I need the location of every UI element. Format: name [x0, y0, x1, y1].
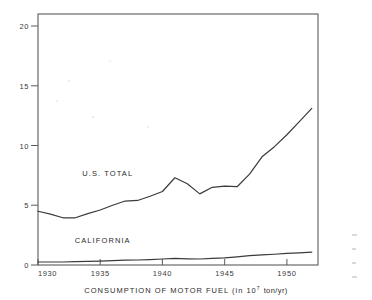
series-label-california: CALIFORNIA [75, 236, 131, 245]
plot-frame [38, 14, 318, 265]
x-tick-label-1940: 1940 [153, 269, 172, 278]
motor-fuel-consumption-chart: 0 5 10 15 20 1930 1935 1940 1945 1950 U.… [0, 0, 372, 300]
figure-container: 0 5 10 15 20 1930 1935 1940 1945 1950 U.… [0, 0, 372, 300]
series-label-us-total: U.S. TOTAL [82, 169, 133, 178]
caption-base: 10 [246, 286, 256, 295]
figure-caption: CONSUMPTION OF MOTOR FUEL (in 107 ton/yr… [84, 285, 287, 295]
y-tick-label-5: 5 [24, 201, 29, 210]
caption-unit: ton/yr) [264, 286, 288, 295]
y-tick-label-20: 20 [19, 22, 29, 31]
caption-main: CONSUMPTION OF MOTOR FUEL (in [84, 286, 243, 295]
y-tick-label-15: 15 [19, 82, 29, 91]
series-line-california [38, 252, 312, 262]
series-line-us-total [38, 108, 312, 217]
x-tick-label-1950: 1950 [277, 269, 296, 278]
x-tick-label-1945: 1945 [215, 269, 234, 278]
y-tick-label-0: 0 [24, 261, 29, 270]
x-tick-label-1930: 1930 [38, 269, 57, 278]
y-axis-ticks [31, 26, 38, 265]
y-tick-label-10: 10 [19, 142, 29, 151]
x-tick-label-1935: 1935 [91, 269, 110, 278]
